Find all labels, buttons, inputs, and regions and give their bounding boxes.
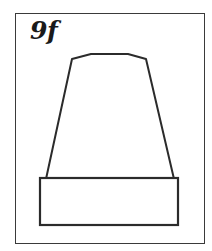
base-block-shape	[40, 178, 178, 225]
tapered-top-shape	[46, 54, 174, 179]
figure-drawing	[0, 0, 212, 251]
